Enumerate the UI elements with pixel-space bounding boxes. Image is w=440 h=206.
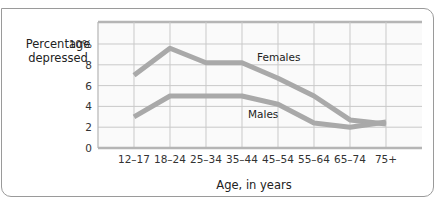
y-tick-label: 0 [85, 142, 92, 154]
series-label-males: Males [248, 108, 278, 120]
x-tick-label: 35–44 [226, 153, 258, 165]
x-axis-ticks: 12–1718–2425–3435–4445–5455–6465–7475+ [118, 153, 397, 165]
x-tick-label: 55–64 [298, 153, 330, 165]
x-tick-label: 12–17 [118, 153, 150, 165]
y-axis-label-line2: depressed [28, 51, 88, 65]
x-tick-label: 18–24 [154, 153, 186, 165]
y-tick-label: 6 [85, 80, 92, 92]
plot-area [98, 22, 422, 148]
x-tick-label: 65–74 [334, 153, 366, 165]
x-tick-label: 75+ [375, 153, 397, 165]
y-tick-label: 4 [85, 100, 92, 112]
line-chart: 0246810% 12–1718–2425–3435–4445–5455–646… [0, 0, 440, 206]
y-tick-label: 2 [85, 121, 92, 133]
series-label-females: Females [257, 51, 300, 63]
x-axis-label: Age, in years [216, 178, 291, 192]
x-tick-label: 45–54 [262, 153, 294, 165]
x-tick-label: 25–34 [190, 153, 222, 165]
y-axis-label-line1: Percentage [26, 37, 91, 51]
